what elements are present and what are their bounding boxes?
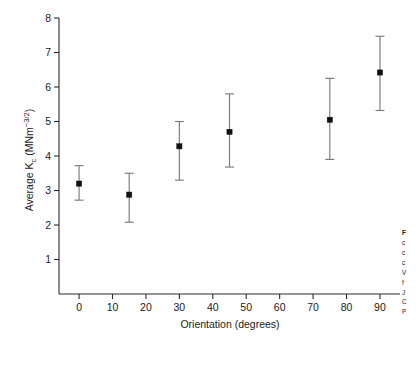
y-tick-label: 4 [45, 150, 51, 162]
x-tick-label: 80 [341, 301, 353, 313]
data-point-marker [327, 117, 332, 122]
x-tick-label: 90 [374, 301, 386, 313]
caption-line: f [402, 278, 420, 288]
y-tick-group: 12345678 [45, 12, 59, 266]
y-axis-title-text: Average Kc (MNm−3/2) [22, 109, 38, 212]
x-axis-title: Orientation (degrees) [180, 318, 279, 330]
figure-container: 12345678 0102030405060708090 Average Kc … [0, 0, 420, 384]
x-tick-label: 20 [140, 301, 152, 313]
y-axis-title: Average Kc (MNm−3/2) [22, 109, 38, 212]
data-point-marker [177, 144, 182, 149]
x-tick-group: 0102030405060708090 [76, 294, 386, 313]
y-tick-label: 8 [45, 12, 51, 24]
data-point-marker [377, 70, 382, 75]
scatter-plot: 12345678 0102030405060708090 Average Kc … [0, 0, 420, 384]
x-tick-label: 0 [76, 301, 82, 313]
svg-text:Orientation (degrees): Orientation (degrees) [180, 318, 279, 330]
caption-line: C [402, 297, 420, 307]
x-tick-label: 50 [240, 301, 252, 313]
caption-line: c [402, 238, 420, 248]
y-tick-label: 6 [45, 81, 51, 93]
x-tick-label: 70 [307, 301, 319, 313]
figure-caption: FcccVfJCP [402, 228, 420, 317]
caption-line: V [402, 268, 420, 278]
x-tick-label: 40 [207, 301, 219, 313]
caption-line: J [402, 288, 420, 298]
data-series-group [75, 36, 385, 222]
y-tick-label: 5 [45, 115, 51, 127]
caption-line: c [402, 258, 420, 268]
x-tick-label: 30 [174, 301, 186, 313]
data-point-marker [127, 192, 132, 197]
data-point-marker [76, 181, 81, 186]
y-tick-label: 2 [45, 219, 51, 231]
caption-line: c [402, 248, 420, 258]
x-tick-label: 10 [107, 301, 119, 313]
y-tick-label: 1 [45, 253, 51, 265]
data-point-marker [227, 129, 232, 134]
y-tick-label: 3 [45, 184, 51, 196]
x-tick-label: 60 [274, 301, 286, 313]
caption-heading: F [402, 228, 420, 238]
y-tick-label: 7 [45, 46, 51, 58]
caption-line: P [402, 307, 420, 317]
